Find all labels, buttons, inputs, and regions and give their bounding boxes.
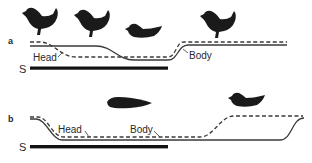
panel-b-label: b (8, 114, 14, 124)
body-label: Body (189, 50, 212, 61)
stimulus-label: S (19, 141, 26, 153)
stimulus-bar (30, 145, 168, 148)
chicken-icon (22, 8, 58, 35)
panel-b: b Head Body S (8, 93, 304, 153)
panel-a-label: a (8, 36, 14, 46)
head-trace-dashed (30, 42, 287, 57)
head-label: Head (58, 124, 82, 135)
stimulus-bar (30, 67, 168, 70)
head-leader-line (85, 131, 89, 137)
chicken-icon (228, 93, 265, 107)
body-leader-line (183, 49, 188, 53)
chicken-icon (125, 24, 162, 38)
chicken-icon (74, 10, 110, 37)
body-trace-solid (30, 45, 287, 60)
head-label: Head (33, 52, 57, 63)
chicken-icon (200, 11, 236, 38)
stimulus-label: S (19, 63, 26, 75)
chicken-icon (107, 97, 152, 108)
body-leader-line (154, 131, 160, 137)
figure-canvas: a Head Body S b (0, 0, 312, 163)
panel-a: a Head Body S (8, 8, 287, 75)
body-label: Body (130, 124, 153, 135)
head-leader-line (58, 52, 63, 57)
